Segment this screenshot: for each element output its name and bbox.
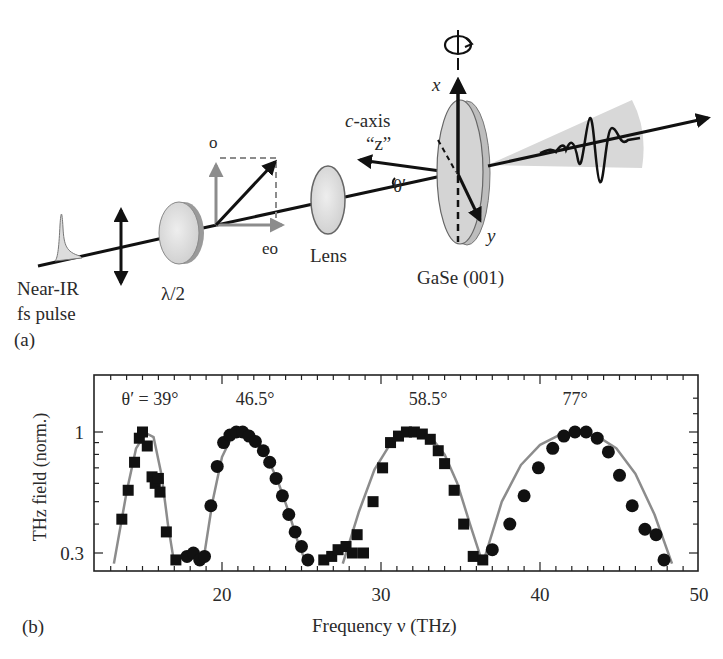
data-point-square xyxy=(425,434,436,445)
pulse-label-line2: fs pulse xyxy=(17,304,76,323)
y-axis-label: y xyxy=(487,226,495,245)
lens xyxy=(311,166,345,234)
data-point-square xyxy=(170,554,181,565)
chart-x-axis-title: Frequency ν (THz) xyxy=(312,616,457,635)
data-point-square xyxy=(433,445,444,456)
data-point-circle xyxy=(626,499,639,512)
data-point-square xyxy=(477,554,488,565)
data-point-circle xyxy=(602,445,615,458)
angle-annotation: 46.5° xyxy=(236,389,275,409)
data-point-circle xyxy=(276,489,289,502)
data-point-circle xyxy=(257,444,270,457)
data-point-square xyxy=(458,519,469,530)
data-point-circle xyxy=(486,543,499,556)
fit-curve xyxy=(114,433,174,564)
data-point-square xyxy=(368,496,379,507)
eo-polarization-label: eo xyxy=(262,240,278,257)
panel-a-tag: (a) xyxy=(14,330,35,349)
x-tick-label-40: 40 xyxy=(531,584,550,605)
data-point-circle xyxy=(270,472,283,485)
data-point-circle xyxy=(568,426,581,439)
c-axis-label-suffix: -axis xyxy=(353,110,390,131)
data-point-circle xyxy=(301,553,314,566)
plot-frame xyxy=(94,375,698,571)
near-ir-pulse-icon xyxy=(55,214,82,261)
data-point-square xyxy=(377,462,388,473)
data-point-square xyxy=(154,487,165,498)
waveplate-label: λ/2 xyxy=(161,284,185,303)
fit-curve xyxy=(203,432,306,564)
data-point-square xyxy=(352,529,363,540)
data-point-circle xyxy=(263,456,276,469)
setup-schematic xyxy=(0,0,723,360)
data-point-square xyxy=(129,457,140,468)
data-point-circle xyxy=(289,525,302,538)
pulse-label-line1: Near-IR xyxy=(17,279,79,298)
data-point-square xyxy=(142,440,153,451)
data-point-circle xyxy=(198,550,211,563)
x-tick-label-30: 30 xyxy=(372,584,391,605)
data-point-circle xyxy=(580,426,593,439)
half-wave-plate xyxy=(159,202,204,264)
data-point-circle xyxy=(638,523,651,536)
crystal-label: GaSe (001) xyxy=(417,268,504,287)
x-tick-label-50: 50 xyxy=(690,584,709,605)
panel-b-tag: (b) xyxy=(22,617,44,636)
o-polarization-label: o xyxy=(209,134,218,151)
thz-spectra-chart: 10.320304050θ′ = 39°46.5°58.5°77° xyxy=(0,359,723,659)
polarization-vectors xyxy=(216,158,282,225)
data-point-circle xyxy=(211,460,224,473)
angle-annotation: 58.5° xyxy=(409,389,448,409)
lens-label: Lens xyxy=(310,246,347,265)
rotation-icon xyxy=(445,30,472,54)
data-point-square xyxy=(137,427,148,438)
z-label: “z” xyxy=(366,134,391,153)
data-point-square xyxy=(468,551,479,562)
c-axis-label: c-axis xyxy=(345,111,390,130)
y-tick-label-0.3: 0.3 xyxy=(60,543,84,564)
data-point-circle xyxy=(557,430,570,443)
data-point-circle xyxy=(204,499,217,512)
data-point-circle xyxy=(503,518,516,531)
data-point-circle xyxy=(658,553,671,566)
angle-annotation: θ′ = 39° xyxy=(122,389,179,409)
data-point-square xyxy=(123,485,134,496)
data-point-square xyxy=(347,548,358,559)
data-point-square xyxy=(161,526,172,537)
data-point-square xyxy=(439,458,450,469)
data-point-circle xyxy=(591,432,604,445)
data-point-circle xyxy=(532,461,545,474)
data-point-square xyxy=(449,485,460,496)
data-point-circle xyxy=(518,489,531,502)
data-point-circle xyxy=(282,508,295,521)
chart-y-axis-title: THz field (norm.) xyxy=(31,413,49,541)
data-point-circle xyxy=(650,528,663,541)
theta-label: θ′ xyxy=(393,176,406,195)
gase-crystal xyxy=(437,100,490,245)
x-axis-label: x xyxy=(432,75,440,94)
fit-curve xyxy=(483,432,672,564)
angle-annotation: 77° xyxy=(562,389,587,409)
data-point-square xyxy=(358,548,369,559)
data-point-circle xyxy=(295,540,308,553)
data-point-circle xyxy=(613,469,626,482)
y-tick-label-1: 1 xyxy=(75,422,85,443)
fit-curve xyxy=(343,432,483,564)
data-point-square xyxy=(116,514,127,525)
x-tick-label-20: 20 xyxy=(213,584,232,605)
figure: o eo Lens λ/2 Near-IR fs pulse (a) c-axi… xyxy=(0,0,723,659)
data-point-square xyxy=(153,473,164,484)
thz-emission-cone xyxy=(488,100,644,168)
data-point-circle xyxy=(546,442,559,455)
